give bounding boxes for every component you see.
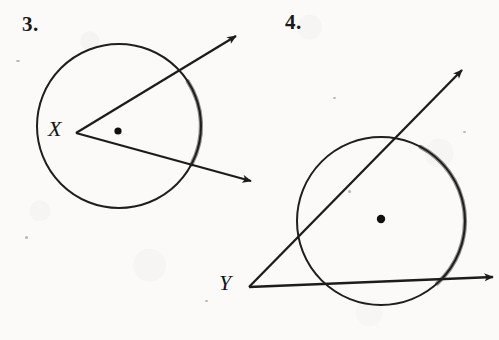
worksheet-page: 3. X 4. [0, 0, 499, 340]
figure-4-upper-ray [249, 70, 462, 287]
figure-4-arc-highlight [420, 147, 465, 284]
figure-4-center-point [377, 215, 385, 223]
figure-4-vertex-label: Y [219, 270, 231, 296]
figure-4-diagram [0, 0, 499, 340]
figure-4-lower-ray [249, 277, 493, 287]
